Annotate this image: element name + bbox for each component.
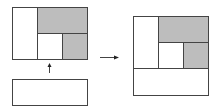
cell-bottom-right-small <box>184 43 209 69</box>
right-arrow-icon <box>100 56 119 60</box>
left-layout <box>13 8 88 60</box>
cell-left-column <box>134 17 159 69</box>
cell-bottom-right-small <box>63 34 88 60</box>
cell-center-small <box>159 43 184 69</box>
cell-top-right-wide <box>38 8 88 34</box>
right-layout <box>134 17 209 96</box>
cell-left-column <box>13 8 38 60</box>
bottom-panel-rect <box>13 80 88 106</box>
bottom-panel <box>13 80 88 106</box>
cell-center-small <box>38 34 63 60</box>
layout-diagram <box>0 0 218 111</box>
cell-top-right-wide <box>159 17 209 43</box>
up-arrow-icon <box>48 63 52 73</box>
cell-bottom-full-width <box>134 69 209 96</box>
